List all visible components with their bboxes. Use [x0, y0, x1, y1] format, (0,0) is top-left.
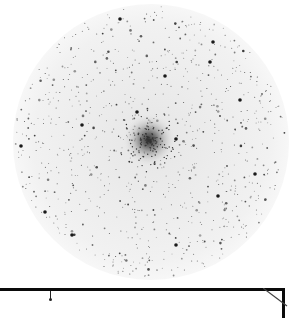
plot-frame [0, 288, 285, 318]
frame-diagonal-line [263, 288, 289, 308]
frame-tick-dot [49, 298, 52, 301]
